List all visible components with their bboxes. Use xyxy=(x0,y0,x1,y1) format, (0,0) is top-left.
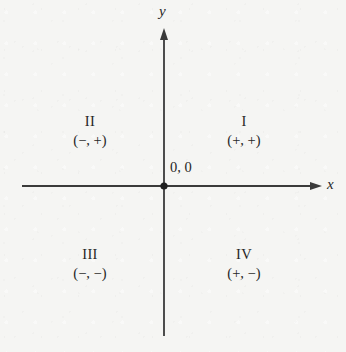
y-axis-arrowhead-icon xyxy=(160,28,168,40)
y-axis-label: y xyxy=(159,4,166,19)
quadrant-two-signs: (−, +) xyxy=(50,131,130,150)
quadrant-one-label: I (+, +) xyxy=(204,112,284,150)
quadrant-two-label: II (−, +) xyxy=(50,112,130,150)
quadrant-three-label: III (−, −) xyxy=(50,245,130,283)
quadrant-three-signs: (−, −) xyxy=(50,264,130,283)
quadrant-two-numeral: II xyxy=(50,112,130,131)
quadrant-four-signs: (+, −) xyxy=(204,264,284,283)
x-axis-label: x xyxy=(327,177,334,192)
origin-point-marker xyxy=(160,182,167,189)
quadrant-one-signs: (+, +) xyxy=(204,131,284,150)
quadrant-four-numeral: IV xyxy=(204,245,284,264)
coordinate-plane-figure: y x 0, 0 I (+, +) II (−, +) III (−, −) I… xyxy=(0,0,346,352)
axes-graphic xyxy=(0,0,346,352)
quadrant-one-numeral: I xyxy=(204,112,284,131)
quadrant-four-label: IV (+, −) xyxy=(204,245,284,283)
quadrant-three-numeral: III xyxy=(50,245,130,264)
origin-label: 0, 0 xyxy=(170,160,192,175)
x-axis-arrowhead-icon xyxy=(310,182,322,190)
